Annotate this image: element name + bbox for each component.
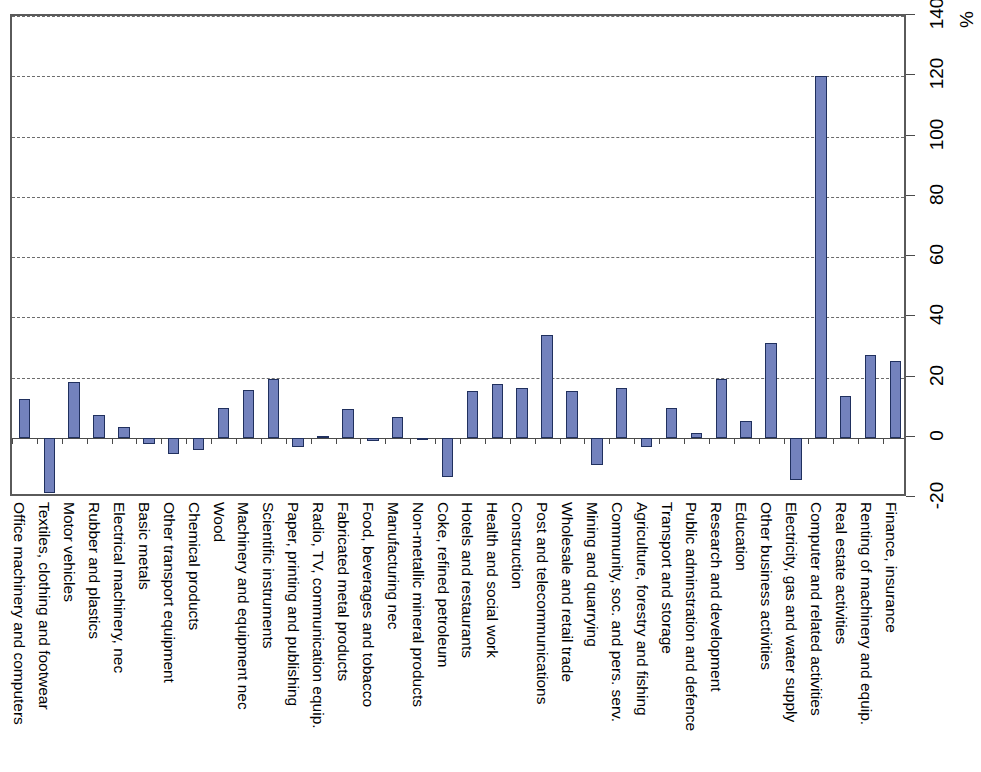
bar — [243, 390, 254, 438]
bar — [765, 343, 776, 438]
category-tick — [385, 438, 386, 444]
bar — [815, 76, 826, 438]
category-tick — [87, 438, 88, 444]
category-tick — [609, 438, 610, 444]
category-label: Paper, printing and publishing — [285, 502, 302, 770]
category-label: Non-metallic mineral products — [410, 502, 427, 770]
category-label: Community, soc. and pers. serv. — [609, 502, 626, 770]
bar — [193, 438, 204, 450]
bar — [616, 388, 627, 438]
category-label: Wood — [211, 502, 228, 770]
category-label: Basic metals — [136, 502, 153, 770]
category-tick — [136, 438, 137, 444]
bar — [93, 415, 104, 438]
category-tick — [186, 438, 187, 444]
bar — [890, 361, 901, 438]
category-tick — [734, 438, 735, 444]
bar — [691, 433, 702, 438]
category-label: Electrical machinery, nec — [111, 502, 128, 770]
category-label: Agriculture, forestry and fishing — [634, 502, 651, 770]
category-tick — [435, 438, 436, 444]
bar — [44, 438, 55, 494]
category-label: Office machinery and computers — [11, 502, 28, 770]
category-tick — [112, 438, 113, 444]
category-label: Radio, TV, communication equip. — [310, 502, 327, 770]
category-tick — [236, 438, 237, 444]
bar — [218, 408, 229, 438]
category-tick — [161, 438, 162, 444]
value-tick-label: 100 — [927, 114, 946, 154]
category-tick — [62, 438, 63, 444]
category-label: Other business activities — [758, 502, 775, 770]
value-tick-label: 40 — [927, 295, 946, 335]
category-tick — [211, 438, 212, 444]
category-tick — [833, 438, 834, 444]
value-tick-label: 60 — [927, 235, 946, 275]
bar — [840, 396, 851, 438]
category-tick — [12, 438, 13, 444]
category-axis-labels: Office machinery and computersTextiles, … — [0, 500, 981, 772]
bar — [492, 384, 503, 438]
category-tick — [709, 438, 710, 444]
category-label: Construction — [509, 502, 526, 770]
bar — [591, 438, 602, 465]
category-tick — [560, 438, 561, 444]
chart-figure: -20020406080100120140 % Office machinery… — [0, 0, 981, 772]
bar — [118, 427, 129, 438]
category-label: Finance, insurance — [883, 502, 900, 770]
category-label: Electricity, gas and water supply — [783, 502, 800, 770]
category-label: Education — [733, 502, 750, 770]
category-tick — [784, 438, 785, 444]
bars-group — [12, 16, 904, 494]
category-tick — [684, 438, 685, 444]
category-label: Research and development — [708, 502, 725, 770]
value-tick-60 — [906, 255, 915, 256]
bar — [392, 417, 403, 438]
category-tick — [37, 438, 38, 444]
category-tick — [311, 438, 312, 444]
category-tick — [759, 438, 760, 444]
category-tick — [858, 438, 859, 444]
category-tick — [286, 438, 287, 444]
value-tick-40 — [906, 315, 915, 316]
bar — [566, 391, 577, 438]
category-label: Other transport equipment — [161, 502, 178, 770]
category-label: Computer and related activities — [808, 502, 825, 770]
value-tick-label: 80 — [927, 174, 946, 214]
category-label: Wholesale and retail trade — [559, 502, 576, 770]
category-label: Public adminstration and defence — [683, 502, 700, 770]
category-label: Food, beverages and tobacco — [360, 502, 377, 770]
category-label: Fabricated metal products — [335, 502, 352, 770]
bar — [168, 438, 179, 455]
bar — [143, 438, 154, 444]
category-label: Mining and quarrying — [584, 502, 601, 770]
bar — [666, 408, 677, 438]
bar — [740, 421, 751, 438]
category-tick — [261, 438, 262, 444]
bar — [292, 438, 303, 447]
value-tick-100 — [906, 135, 915, 136]
category-label: Transport and storage — [659, 502, 676, 770]
category-label: Hotels and restaurants — [459, 502, 476, 770]
bar — [865, 355, 876, 438]
category-label: Motor vehicles — [61, 502, 78, 770]
category-tick — [535, 438, 536, 444]
value-tick-120 — [906, 74, 915, 75]
category-label: Machinery and equipment nec — [235, 502, 252, 770]
category-tick — [659, 438, 660, 444]
bar — [541, 335, 552, 437]
category-tick — [460, 438, 461, 444]
bar — [367, 438, 378, 441]
category-label: Chemical products — [186, 502, 203, 770]
category-tick — [410, 438, 411, 444]
category-label: Scientific instruments — [260, 502, 277, 770]
category-tick — [584, 438, 585, 444]
category-label: Health and social work — [484, 502, 501, 770]
value-tick-label: 140 — [927, 0, 946, 34]
bar — [467, 391, 478, 438]
category-tick — [634, 438, 635, 444]
category-label: Post and telecommunications — [534, 502, 551, 770]
bar — [68, 382, 79, 438]
value-tick-0 — [906, 436, 915, 437]
value-tick-label: 120 — [927, 54, 946, 94]
